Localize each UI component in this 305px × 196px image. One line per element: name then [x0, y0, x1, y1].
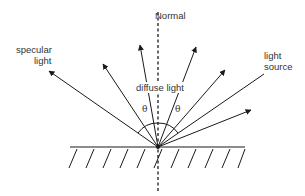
surface-hatching — [69, 149, 245, 168]
theta-right-label: θ — [175, 104, 180, 114]
specular-label-1: specular — [16, 44, 52, 55]
theta-left-label: θ — [142, 104, 147, 114]
diffuse-label: diffuse light — [136, 82, 184, 93]
source-label-2: source — [264, 61, 293, 72]
incidence-point — [156, 145, 160, 149]
source-label-1: light — [264, 50, 281, 61]
normal-label: Normal — [155, 10, 186, 21]
reflection-diagram — [0, 0, 305, 196]
specular-label-2: light — [34, 55, 51, 66]
